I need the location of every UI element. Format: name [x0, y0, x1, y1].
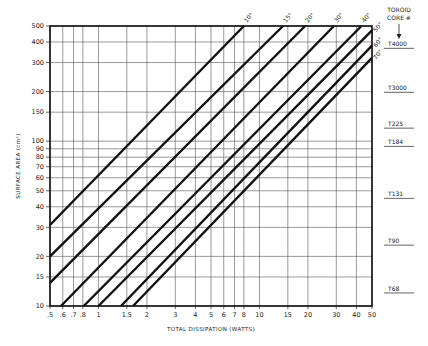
- core-header-line1: TOROID: [386, 6, 411, 13]
- y-tick-label: 100: [32, 137, 44, 145]
- y-tick-label: 400: [32, 38, 44, 46]
- line-label: 20°: [303, 11, 315, 24]
- y-tick-label: 20: [36, 253, 44, 261]
- x-tick-label: .5: [47, 311, 53, 319]
- y-axis-title: SURFACE AREA (cm²): [15, 133, 21, 198]
- line-label: 15°: [281, 11, 293, 24]
- core-header-line2: CORE #: [387, 14, 411, 21]
- y-tick-label: 150: [32, 108, 44, 116]
- x-tick-label: .6: [60, 311, 66, 319]
- temperature-rise-chart: .5.6.7.811.52345678101520304050 10152030…: [0, 0, 428, 346]
- y-tick-label: 50: [36, 187, 44, 195]
- line-label: 30°: [332, 11, 344, 24]
- line-label: 60°: [371, 36, 383, 49]
- x-axis-title: TOTAL DISSIPATION (WATTS): [166, 326, 255, 332]
- y-tick-label: 80: [36, 153, 44, 161]
- x-tick-label: 1.5: [122, 311, 132, 319]
- y-axis-ticks: 10152030405060708090100150200300400500: [32, 22, 50, 310]
- x-tick-label: 40: [352, 311, 360, 319]
- toroid-core-scale: TOROID CORE # T4000T3000T225T184T131T90T…: [384, 6, 414, 293]
- core-label: T131: [387, 190, 403, 197]
- x-tick-label: .8: [80, 311, 86, 319]
- x-tick-label: 10: [255, 311, 263, 319]
- line-label: 10°: [242, 11, 254, 24]
- y-tick-label: 30: [36, 224, 44, 232]
- x-tick-label: 50: [368, 311, 376, 319]
- core-label: T4000: [387, 40, 407, 47]
- arrow-down-icon: [397, 24, 402, 39]
- y-tick-label: 90: [36, 145, 44, 153]
- y-tick-label: 10: [36, 302, 44, 310]
- x-tick-label: 4: [193, 311, 197, 319]
- temperature-rise-line: [61, 26, 334, 306]
- x-tick-label: 2: [145, 311, 149, 319]
- x-tick-label: 5: [209, 311, 213, 319]
- line-label: 40°: [360, 11, 372, 24]
- x-tick-label: 6: [222, 311, 226, 319]
- core-label: T184: [387, 138, 403, 145]
- y-tick-label: 40: [36, 203, 44, 211]
- core-label: T68: [387, 285, 399, 292]
- core-label: T3000: [387, 84, 407, 91]
- x-tick-label: 15: [284, 311, 292, 319]
- y-tick-label: 60: [36, 174, 44, 182]
- x-tick-label: .7: [70, 311, 76, 319]
- y-tick-label: 300: [32, 59, 44, 67]
- x-tick-label: 3: [173, 311, 177, 319]
- series-labels: 10°15°20°30°40°50°60°70°: [242, 11, 383, 61]
- y-tick-label: 500: [32, 22, 44, 30]
- core-label: T90: [387, 237, 399, 244]
- x-tick-label: 7: [232, 311, 236, 319]
- x-tick-label: 8: [242, 311, 246, 319]
- y-tick-label: 70: [36, 163, 44, 171]
- x-tick-label: 20: [304, 311, 312, 319]
- temperature-rise-line: [84, 26, 362, 306]
- chart-svg: .5.6.7.811.52345678101520304050 10152030…: [0, 0, 428, 346]
- core-label: T225: [387, 120, 403, 127]
- y-tick-label: 15: [36, 273, 44, 281]
- x-tick-label: 30: [332, 311, 340, 319]
- x-tick-label: 1: [96, 311, 100, 319]
- line-label: 70°: [371, 48, 383, 61]
- y-tick-label: 200: [32, 88, 44, 96]
- grid-lines: [50, 26, 372, 306]
- line-label: 50°: [371, 20, 383, 33]
- x-axis-ticks: .5.6.7.811.52345678101520304050: [47, 306, 376, 319]
